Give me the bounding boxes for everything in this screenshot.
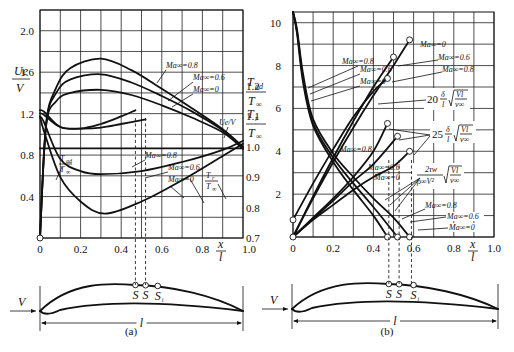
x-tick-label: 0 [37,243,43,255]
figure: 00.20.40.60.81.00.40.81.21.62.00.70.80.9… [0,0,514,352]
formula-tau-sqrt-num: Vl [451,166,459,175]
annotation-ue-ma08: Ma∞=0.8 [165,61,198,70]
velocity-arrowhead [283,307,288,311]
y-tick-label-right: 0.8 [246,202,260,214]
xlabel-a-l: l [219,250,223,264]
marker-b-start [290,217,296,223]
y-tick-label-right: 0.9 [246,171,260,183]
velocity-label: V [18,295,27,309]
ylabel-tinf: T [248,94,256,108]
x-tick-label: 0 [290,242,296,254]
annotation-b-ma0-left: Ma∞=0 [359,77,386,86]
annotation-tad: T [60,154,65,163]
series-line-b-0 [293,40,410,237]
annotation-tad-sub: ad [66,158,73,164]
ylabel-tad-sub: ad [255,82,264,91]
y-tick-label: 2 [276,188,282,200]
annotation-tr-tinf: T [206,182,211,191]
velocity-arrowhead [31,309,36,313]
annotation-ue-v: Ue/V [219,118,237,127]
x-tick-label: 0.8 [447,242,461,254]
ylabel-tinf-sub: ∞ [256,100,262,109]
x-tick-label: 0.6 [155,243,169,255]
annotation-b-ma08-right: Ma∞=0.8 [441,65,474,74]
annotation-b-delta2-ma08: Ma∞=0.8 [339,145,372,154]
x-tick-label: 0.2 [326,242,340,254]
ylabel-ue: Ue [14,64,29,78]
separation-point-label: S [155,289,161,303]
ylabel-tinf2: T [248,126,256,140]
xlabel-b-x: x [469,237,476,251]
separation-point-label: S [143,288,149,302]
formula-delta-2star-sqrt-num: Vl [461,125,469,134]
separation-point [155,283,161,289]
xlabel-b: x l [468,237,478,264]
ylabel-v: V [16,81,25,95]
annotation-b-delta2-ma0: Ma∞=0 [373,173,400,182]
annotation-b-tau-ma06: Ma∞=0.6 [446,212,479,221]
velocity-label: V [270,293,279,307]
chord-arrow-left [293,319,298,323]
annotation-t-ma06: Ma∞=0.6 [167,163,200,172]
chord-arrow-right [237,321,242,325]
separation-point-label: S [386,287,392,301]
formula-delta-star-num: δ [441,90,445,99]
formula-delta-2star-num: δ [446,125,450,134]
annotation-b-tau-ma0: Ma∞=0 [448,223,475,232]
ylabel-tinf2-sub: ∞ [256,132,262,141]
series-end-marker [384,120,390,126]
chord-arrow-right [492,319,497,323]
annotation-b-ma06-right: Ma∞=0.6 [437,53,470,62]
origin-marker-b [290,234,296,240]
y-tick-label: 4 [276,145,282,157]
formula-delta-star-sqrt-den: ν∞ [455,100,465,109]
y-tick-label-left: 2.0 [20,25,34,37]
origin-marker-a [37,235,43,241]
x-tick-label: 0.4 [367,242,381,254]
y-tick-label: 8 [276,60,282,72]
separation-point-label: S [132,288,138,302]
y-tick-label-right: 1.0 [246,141,260,153]
xlabel-a: x l [216,237,226,264]
annotation-b-ma06-left: Ma∞=0.6 [359,65,392,74]
y-tick-label-left: 0.4 [20,191,34,203]
annotations-panel-b: Ma∞=0.8 Ma∞=0.6 Ma∞=0 Ma∞=0 Ma∞=0.6 Ma∞=… [308,40,484,264]
annotation-b-tau-ma08: Ma∞=0.8 [424,201,457,210]
caption-a: (a) [125,325,138,338]
annotation-b-delta2-ma06: Ma∞=0.6 [367,163,400,172]
annotation-t-ma08: Ma∞=0.8 [144,151,177,160]
annotation-ue-ma06: Ma∞=0.6 [192,73,225,82]
formula-tau-sqrt-den: ν∞ [450,176,460,185]
x-tick-label: 1.0 [487,242,501,254]
series-end-marker [407,148,413,154]
y-tick-label: 10 [270,17,282,29]
separation-point-label: S [396,287,402,301]
separation-point-sub: i [418,296,420,302]
ylabel-ue-v: Ue V [12,64,30,95]
formula-delta-2star-sqrt-den: ν∞ [460,135,470,144]
chord-arrow-left [41,321,46,325]
formula-tau-den: ρ∞V² [416,177,434,186]
annotations-panel-a: Ma∞=0.8 Ma∞=0.6 Ma∞=0 Ue/V T ad T ∞ Ma∞=… [56,61,237,203]
y-tick-label: 6 [276,102,282,114]
separation-point-label: S [411,288,417,302]
series-end-marker [384,234,390,240]
formula-delta-2star-coef: 25 [432,128,444,140]
annotation-tr-tinf-sub: ∞ [212,186,217,192]
caption-b: (b) [381,325,394,338]
annotation-t-ma0: Ma∞=0 [167,175,194,184]
annotation-tad-tinf-sub: ∞ [66,169,71,175]
formula-delta-star: 20 δ l Vl ν∞ [378,88,470,110]
xlabel-a-x: x [217,237,224,251]
x-tick-label: 0.6 [407,242,421,254]
y-tick-label-left: 1.2 [20,108,34,120]
series-end-marker [395,234,401,240]
annotation-ue-ma0: Ma∞=0 [192,85,219,94]
x-tick-label: 0.4 [114,243,128,255]
curves-panel-b [290,12,413,240]
series-end-marker [395,133,401,139]
separation-point-sub: i [162,297,164,303]
y-tick-label-left: 0.8 [20,149,34,161]
y-tick-label-right: 0.7 [246,232,260,244]
annotation-tr: T [206,171,211,180]
